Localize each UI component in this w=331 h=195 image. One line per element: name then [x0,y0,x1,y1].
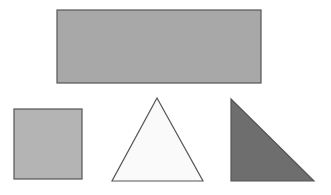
figure-canvas [0,0,331,195]
shape-large-rectangle [57,10,261,83]
shape-equilateral-triangle [112,98,203,181]
shape-right-triangle [231,99,314,181]
shapes-svg [0,0,331,195]
shape-small-square [14,109,82,179]
